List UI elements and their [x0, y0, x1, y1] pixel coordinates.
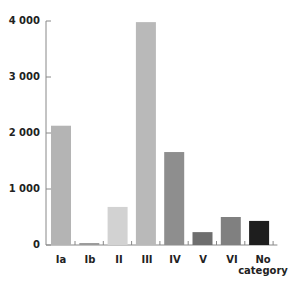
bar-iii	[136, 22, 156, 245]
xlabel-no-category-line2: category	[233, 265, 291, 276]
bar-ib	[79, 243, 99, 245]
xlabel-no-category-line1: No	[233, 254, 291, 265]
bar-ii	[108, 207, 128, 245]
ytick-label-4000: 4 000	[0, 16, 40, 26]
bar-chart: 4 000 3 000 2 000 1 000 0 Ia Ib II III I…	[0, 0, 291, 288]
plot-area	[0, 0, 291, 288]
bar-iv	[164, 152, 184, 245]
ytick-label-0: 0	[0, 240, 40, 250]
ytick-label-1000: 1 000	[0, 184, 40, 194]
bar-vi	[221, 217, 241, 245]
ytick-label-3000: 3 000	[0, 72, 40, 82]
bar-ia	[51, 126, 71, 245]
ytick-label-2000: 2 000	[0, 128, 40, 138]
bar-no-category	[249, 221, 269, 245]
xlabel-no-category: No category	[233, 254, 291, 276]
bar-v	[193, 232, 213, 245]
